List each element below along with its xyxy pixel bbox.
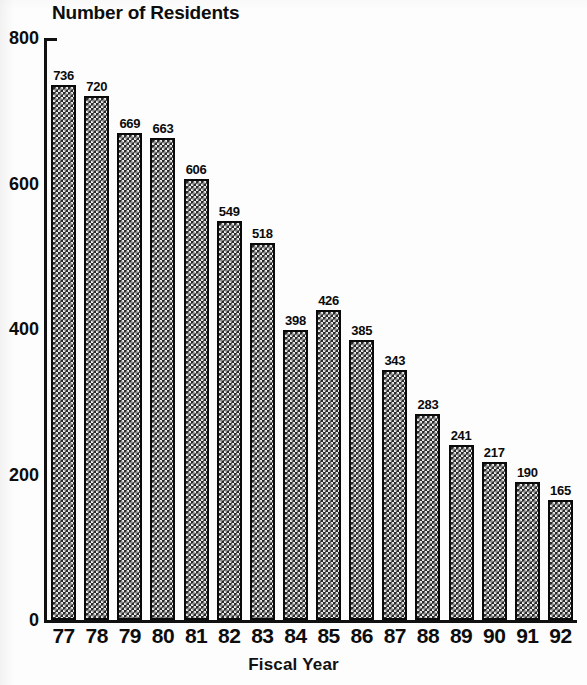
bar-value-label: 385 — [351, 323, 372, 338]
bar-value-label: 426 — [318, 293, 339, 308]
bar-slot: 663 — [150, 38, 175, 620]
bar-slot: 518 — [250, 38, 275, 620]
bar-slot: 283 — [415, 38, 440, 620]
bar — [316, 310, 341, 620]
bar-value-label: 669 — [119, 116, 140, 131]
x-axis-tick-label: 92 — [544, 624, 577, 648]
bar — [51, 85, 76, 620]
bar-value-label: 283 — [418, 397, 439, 412]
bar-slot: 385 — [349, 38, 374, 620]
y-axis-tick-label: 200 — [9, 464, 39, 485]
bar-value-label: 736 — [53, 68, 74, 83]
y-axis-tick-label: 600 — [9, 173, 39, 194]
bar — [449, 445, 474, 620]
bar-series: 7367206696636065495183984263853432832412… — [47, 38, 577, 620]
bar-value-label: 518 — [252, 226, 273, 241]
x-axis-tick-label: 82 — [213, 624, 246, 648]
bar-value-label: 549 — [219, 204, 240, 219]
x-axis-tick-label: 90 — [478, 624, 511, 648]
x-axis-tick-label: 79 — [113, 624, 146, 648]
y-axis-tick-labels: 0200400600800 — [0, 38, 39, 620]
chart-title: Number of Residents — [52, 2, 239, 24]
bar — [84, 96, 109, 620]
bar — [548, 500, 573, 620]
bar-slot: 398 — [283, 38, 308, 620]
bar-slot: 720 — [84, 38, 109, 620]
bar-value-label: 165 — [550, 483, 571, 498]
bar — [415, 414, 440, 620]
y-axis-tick-label: 400 — [9, 319, 39, 340]
x-axis-tick-label: 81 — [180, 624, 213, 648]
bar-slot: 165 — [548, 38, 573, 620]
x-axis-title: Fiscal Year — [0, 655, 587, 675]
bar-slot: 343 — [382, 38, 407, 620]
x-axis-tick-label: 88 — [411, 624, 444, 648]
bar-slot: 241 — [449, 38, 474, 620]
bar — [150, 138, 175, 620]
y-axis-tick-label: 0 — [29, 610, 39, 631]
bar-value-label: 398 — [285, 313, 306, 328]
x-axis-tick-labels: 77787980818283848586878889909192 — [47, 624, 577, 652]
x-axis-tick-label: 77 — [47, 624, 80, 648]
bar — [482, 462, 507, 620]
bar — [117, 133, 142, 620]
bar-value-label: 217 — [484, 445, 505, 460]
x-axis-tick-label: 78 — [80, 624, 113, 648]
bar — [217, 221, 242, 620]
bar — [184, 179, 209, 620]
bar-value-label: 606 — [186, 162, 207, 177]
bar-value-label: 190 — [517, 465, 538, 480]
bar — [250, 243, 275, 620]
bar — [382, 370, 407, 620]
bar-value-label: 343 — [384, 353, 405, 368]
x-axis-tick-label: 80 — [146, 624, 179, 648]
bar-value-label: 720 — [86, 79, 107, 94]
bar-value-label: 663 — [153, 121, 174, 136]
bar-slot: 426 — [316, 38, 341, 620]
x-axis-tick-label: 85 — [312, 624, 345, 648]
x-axis-tick-label: 83 — [246, 624, 279, 648]
bar-slot: 669 — [117, 38, 142, 620]
bar-slot: 606 — [184, 38, 209, 620]
x-axis-tick-label: 91 — [511, 624, 544, 648]
bar-slot: 549 — [217, 38, 242, 620]
bar-slot: 217 — [482, 38, 507, 620]
x-axis-line — [44, 620, 577, 623]
bar-chart-figure: Number of Residents 0200400600800 736720… — [0, 0, 587, 685]
bar — [515, 482, 540, 620]
bar-slot: 736 — [51, 38, 76, 620]
bar-value-label: 241 — [451, 428, 472, 443]
bar — [349, 340, 374, 620]
x-axis-tick-label: 89 — [445, 624, 478, 648]
y-axis-tick-label: 800 — [9, 28, 39, 49]
x-axis-tick-label: 86 — [345, 624, 378, 648]
x-axis-tick-label: 84 — [279, 624, 312, 648]
bar-slot: 190 — [515, 38, 540, 620]
x-axis-tick-label: 87 — [378, 624, 411, 648]
bar — [283, 330, 308, 620]
